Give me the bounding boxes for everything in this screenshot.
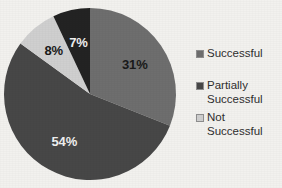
legend-label-not-successful: Not Successful bbox=[207, 110, 282, 138]
chart-legend: Successful Partially Successful Not Succ… bbox=[196, 46, 282, 138]
data-label-fourth: 7% bbox=[69, 35, 88, 50]
legend-item-partially-successful[interactable]: Partially Successful bbox=[196, 78, 282, 106]
legend-label-partially-successful: Partially Successful bbox=[207, 78, 263, 106]
legend-item-not-successful[interactable]: Not Successful bbox=[196, 110, 282, 138]
legend-item-successful[interactable]: Successful bbox=[196, 46, 282, 60]
legend-swatch-icon-partially-successful bbox=[196, 82, 204, 90]
legend-swatch-icon-not-successful bbox=[196, 114, 204, 122]
legend-label-successful: Successful bbox=[207, 46, 263, 60]
pie-chart-figure: 31% 54% 8% 7% Successful Partially Succe… bbox=[0, 0, 282, 188]
pie-slices bbox=[4, 8, 176, 180]
data-label-not-successful: 8% bbox=[45, 43, 64, 58]
data-label-partially: 54% bbox=[52, 134, 78, 149]
legend-swatch-icon-successful bbox=[196, 50, 204, 58]
data-label-successful: 31% bbox=[122, 57, 148, 72]
